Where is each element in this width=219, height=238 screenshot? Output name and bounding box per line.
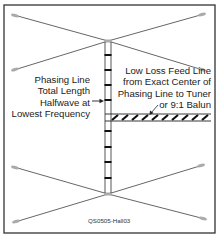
feed-line (105, 114, 211, 121)
feed-line-label-line: Low Loss Feed Line (118, 65, 211, 76)
phasing-line-ladder (105, 42, 112, 193)
phasing-line-label-line: Total Length (12, 85, 90, 96)
phasing-line-label-line: Phasing Line (12, 74, 90, 85)
phasing-line-arrow-icon (92, 99, 104, 103)
figure-id: QS0505-Hall03 (88, 217, 130, 224)
feed-line-label-line: Phasing Line to Tuner (118, 88, 211, 99)
top-crossed-dipoles (11, 12, 207, 72)
phasing-line-label-line: Lowest Frequency (12, 108, 90, 119)
feed-line-label-line: from Exact Center of (118, 76, 211, 87)
phasing-line-label: Phasing Line Total Length Halfwave at Lo… (12, 74, 90, 119)
phasing-line-label-line: Halfwave at (12, 97, 90, 108)
feed-line-label: Low Loss Feed Line from Exact Center of … (118, 65, 211, 110)
feed-line-label-line: or 9:1 Balun (118, 99, 211, 110)
bottom-crossed-dipoles (11, 163, 208, 224)
